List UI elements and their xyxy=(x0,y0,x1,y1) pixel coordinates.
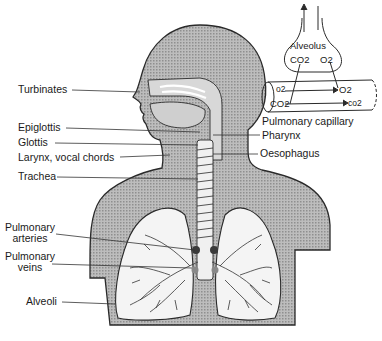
label-oesophagus: Oesophagus xyxy=(260,148,320,159)
respiratory-diagram: Turbinates Epiglottis Glottis Larynx, vo… xyxy=(0,0,382,341)
label-co2-alveolus: CO2 xyxy=(290,54,310,65)
label-larynx: Larynx, vocal chords xyxy=(18,152,114,163)
label-epiglottis: Epiglottis xyxy=(18,122,61,133)
label-co2-out: co2 xyxy=(348,98,362,108)
label-alveolus: Alveolus xyxy=(290,40,326,51)
label-pulmonary-veins-2: veins xyxy=(4,262,56,273)
label-o2-alveolus: O2 xyxy=(320,54,333,65)
label-co2-in: CO2 xyxy=(270,98,290,109)
label-glottis: Glottis xyxy=(18,137,48,148)
label-trachea: Trachea xyxy=(18,171,56,182)
label-turbinates: Turbinates xyxy=(18,84,67,95)
label-pulmonary-capillary: Pulmonary capillary xyxy=(262,116,354,127)
trachea-rings xyxy=(197,140,213,280)
label-o2-out: O2 xyxy=(339,84,352,95)
label-o2-in: o2 xyxy=(276,84,285,94)
label-pulmonary-arteries-2: arteries xyxy=(4,233,56,244)
label-pharynx: Pharynx xyxy=(262,130,301,141)
body-illustration xyxy=(0,0,382,341)
label-alveoli: Alveoli xyxy=(26,296,57,307)
